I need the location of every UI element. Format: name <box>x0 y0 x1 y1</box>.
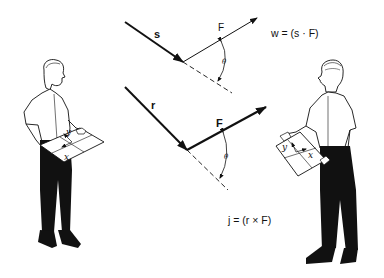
theta-label-bottom: θ <box>224 153 229 161</box>
angular-momentum-equation: j = (r × F) <box>227 214 271 226</box>
left-man-head <box>44 59 65 90</box>
displacement-label: s <box>154 28 160 40</box>
left-man-shoe-right <box>58 230 81 248</box>
diagram-canvas: s F θ w = (s · F) r F θ j = (r × F) <box>0 0 384 278</box>
right-board-y-label: y <box>281 142 288 152</box>
work-equation: w = (s · F) <box>270 27 319 39</box>
position-extension-dashed <box>187 150 228 190</box>
torque-diagram: r F θ j = (r × F) <box>125 87 271 226</box>
left-man-shirt <box>24 89 70 142</box>
right-man-shoe-left <box>306 246 336 264</box>
left-board-y-label: y <box>65 127 72 137</box>
position-vector-r <box>125 87 187 150</box>
left-board-x-label: x <box>64 152 69 162</box>
left-man-figure: y x <box>24 59 104 248</box>
position-label: r <box>151 99 156 111</box>
work-diagram: s F θ w = (s · F) <box>125 18 319 93</box>
right-board-x-label: x <box>308 150 313 160</box>
right-man-shirt <box>306 92 356 148</box>
right-man-figure: y x <box>276 60 358 264</box>
right-man-shoe-right <box>340 248 358 264</box>
theta-label-top: θ <box>222 58 227 66</box>
force-label-top: F <box>218 22 224 33</box>
force-label-bottom: F <box>216 117 223 129</box>
left-man-shoe-left <box>38 230 57 248</box>
